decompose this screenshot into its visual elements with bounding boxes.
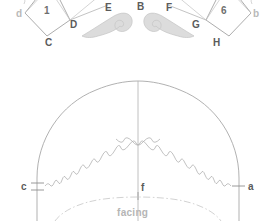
facing-label: facing (117, 208, 148, 218)
vertex-label-C: C (45, 38, 52, 48)
vertex-label-D: D (70, 20, 77, 30)
free-label-E: E (105, 3, 112, 13)
dome-label-f: f (141, 183, 144, 193)
vertex-label-H: H (213, 38, 220, 48)
vertex-label-d: d (16, 9, 22, 19)
left-scroll-motif (82, 13, 132, 37)
free-label-B: B (137, 2, 144, 12)
pattern-diagram-canvas: d 1 C D E B F G 6 H b c f a facing (0, 0, 276, 221)
diagram-vector-layer (0, 0, 276, 221)
vertex-label-b: b (253, 9, 259, 19)
dome-label-a: a (248, 182, 254, 192)
vertex-label-G: G (192, 20, 200, 30)
polygon-number-1: 1 (44, 6, 50, 16)
right-scroll-motif (144, 13, 194, 37)
polygon-number-6: 6 (221, 6, 227, 16)
free-label-F: F (166, 3, 172, 13)
dome-label-c: c (21, 182, 27, 192)
